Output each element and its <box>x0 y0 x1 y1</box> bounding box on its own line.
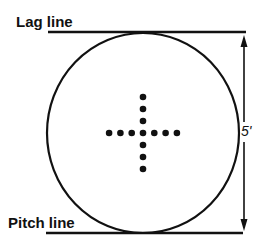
arrow-up-icon <box>241 35 248 47</box>
cross-dot <box>162 130 169 137</box>
cross-dot <box>174 130 181 137</box>
pitch-line-label: Pitch line <box>8 214 75 231</box>
cross-dot <box>140 94 147 101</box>
dotted-cross <box>106 94 180 173</box>
dimension-label: 5' <box>241 123 253 139</box>
cross-dot <box>106 130 113 137</box>
lag-line-label: Lag line <box>16 13 73 30</box>
cross-dot <box>117 130 124 137</box>
cross-dot <box>140 130 147 137</box>
cross-dot <box>140 106 147 113</box>
diagram-canvas: Lag line Pitch line 5' <box>0 0 265 247</box>
cross-dot <box>151 130 158 137</box>
cross-dot <box>140 142 147 149</box>
cross-dot <box>140 154 147 161</box>
cross-dot <box>128 130 135 137</box>
cross-dot <box>140 118 147 125</box>
cross-dot <box>140 166 147 173</box>
arrow-down-icon <box>241 219 248 231</box>
